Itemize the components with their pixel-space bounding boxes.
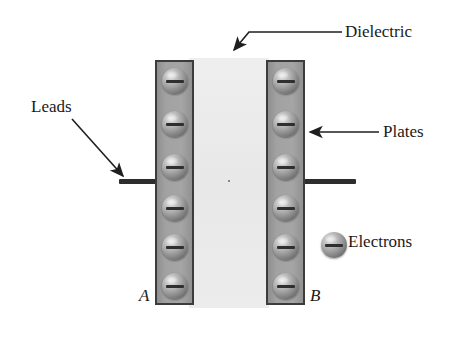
label-leads: Leads <box>31 97 72 116</box>
minus-sign-icon <box>325 244 343 247</box>
plate-label-b: B <box>310 286 320 306</box>
leads-leader <box>72 119 123 176</box>
electron-highlight <box>326 236 336 242</box>
label-plates: Plates <box>383 122 424 141</box>
legend-electron-icon <box>321 232 347 258</box>
dielectric-leader <box>234 32 342 50</box>
leader-lines <box>0 0 461 339</box>
label-electrons: Electrons <box>348 232 412 251</box>
label-dielectric: Dielectric <box>345 22 412 41</box>
plate-label-a: A <box>139 286 149 306</box>
capacitor-diagram: Dielectric Plates Electrons Leads A B <box>0 0 461 339</box>
